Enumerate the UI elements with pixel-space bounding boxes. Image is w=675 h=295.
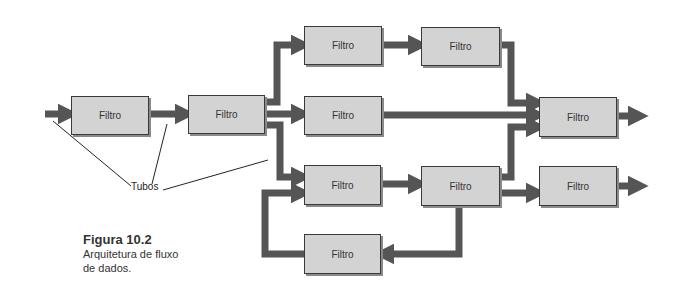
filter-label: Filtro	[449, 41, 471, 52]
filter-box: Filtro	[71, 96, 149, 135]
pipe-f2-f3	[265, 45, 299, 102]
filter-label: Filtro	[331, 180, 353, 191]
filter-box: Filtro	[188, 95, 265, 134]
filter-box: Filtro	[304, 165, 381, 205]
figure-number: Figura 10.2	[83, 232, 213, 247]
filter-box: Filtro	[421, 166, 500, 206]
figure-caption: Figura 10.2 Arquitetura de fluxo de dado…	[83, 232, 213, 275]
filter-box: Filtro	[304, 96, 382, 135]
filter-label: Filtro	[332, 40, 354, 51]
pipe-f7-f8	[386, 206, 459, 254]
filter-label: Filtro	[99, 110, 121, 121]
pipe-f4-f9	[500, 45, 534, 103]
pipe-f2-f6	[265, 125, 299, 177]
pipe-f7-f9	[500, 127, 534, 177]
filter-box: Filtro	[421, 27, 500, 66]
filter-box: Filtro	[539, 166, 617, 206]
filter-label: Filtro	[332, 110, 354, 121]
filter-box: Filtro	[539, 97, 617, 137]
pipe-f8-f6	[265, 193, 304, 254]
filter-box: Filtro	[304, 234, 381, 274]
filter-label: Filtro	[449, 181, 471, 192]
filter-label: Filtro	[215, 109, 237, 120]
filter-label: Filtro	[331, 249, 353, 260]
pipes-annotation-label: Tubos	[131, 181, 158, 192]
filter-label: Filtro	[567, 112, 589, 123]
data-flow-diagram: Filtro Filtro Filtro Filtro Filtro Filtr…	[0, 0, 675, 295]
filter-label: Filtro	[567, 181, 589, 192]
filter-box: Filtro	[304, 26, 382, 65]
figure-caption-line1: Arquitetura de fluxo	[83, 247, 213, 261]
figure-caption-line2: de dados.	[83, 261, 213, 275]
